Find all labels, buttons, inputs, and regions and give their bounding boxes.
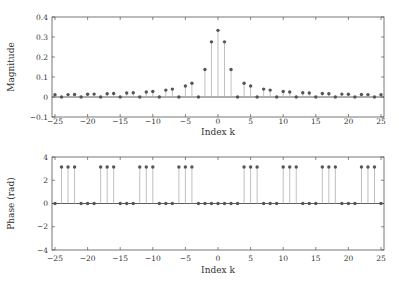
stem-marker <box>105 92 108 95</box>
stem-marker <box>73 165 76 168</box>
y-tick-label: 0.4 <box>36 13 48 22</box>
stem-marker <box>216 29 219 32</box>
stem-marker <box>60 165 63 168</box>
x-tick-label: 15 <box>311 254 321 263</box>
figure: −25−20−15−10−50510152025−0.100.10.20.30.… <box>0 0 399 291</box>
x-tick-label: 10 <box>278 117 288 126</box>
stem-marker <box>158 202 161 205</box>
stem-marker <box>53 93 56 96</box>
x-axis-label: Index k <box>201 265 235 275</box>
stem-marker <box>210 40 213 43</box>
stem-marker <box>373 165 376 168</box>
stem-marker <box>334 165 337 168</box>
stem-marker <box>66 93 69 96</box>
stem-marker <box>164 88 167 91</box>
x-tick-label: −15 <box>112 254 128 263</box>
stem-marker <box>177 165 180 168</box>
stem-marker <box>53 202 56 205</box>
stem-marker <box>145 90 148 93</box>
stem-marker <box>229 202 232 205</box>
stem-marker <box>360 93 363 96</box>
stem-marker <box>197 95 200 98</box>
magnitude-plot: −25−20−15−10−50510152025−0.100.10.20.30.… <box>6 13 386 137</box>
stem-marker <box>379 93 382 96</box>
stem-marker <box>249 165 252 168</box>
stem-marker <box>138 95 141 98</box>
stem-marker <box>373 95 376 98</box>
phase-plot: −25−20−15−10−50510152025−4−2024Index kPh… <box>6 153 386 275</box>
x-tick-label: 5 <box>248 117 253 126</box>
stem-marker <box>295 95 298 98</box>
stem-marker <box>171 87 174 90</box>
stem-marker <box>379 202 382 205</box>
y-tick-label: 2 <box>43 176 48 185</box>
stem-marker <box>321 92 324 95</box>
stem-marker <box>151 90 154 93</box>
stem-marker <box>366 165 369 168</box>
stem-marker <box>210 202 213 205</box>
stem-marker <box>132 91 135 94</box>
stem-marker <box>92 92 95 95</box>
stem-marker <box>360 165 363 168</box>
stem-marker <box>282 90 285 93</box>
x-tick-label: 15 <box>311 117 321 126</box>
stem-marker <box>334 95 337 98</box>
stem-marker <box>340 202 343 205</box>
stem-marker <box>190 82 193 85</box>
stem-marker <box>66 165 69 168</box>
x-tick-label: 25 <box>376 254 386 263</box>
x-tick-label: −15 <box>112 117 128 126</box>
stem-marker <box>353 202 356 205</box>
stem-marker <box>327 92 330 95</box>
stem-marker <box>366 93 369 96</box>
stem-marker <box>223 202 226 205</box>
stem-marker <box>190 165 193 168</box>
stem-marker <box>347 202 350 205</box>
y-tick-label: −0.1 <box>30 113 48 122</box>
stem-marker <box>119 202 122 205</box>
y-axis-label: Phase (rad) <box>6 177 16 229</box>
stem-marker <box>229 68 232 71</box>
stem-marker <box>301 202 304 205</box>
x-tick-label: −25 <box>47 117 63 126</box>
stem-marker <box>138 165 141 168</box>
stem-marker <box>73 93 76 96</box>
x-tick-label: 20 <box>344 117 354 126</box>
stem-marker <box>314 202 317 205</box>
stem-marker <box>262 202 265 205</box>
stem-marker <box>236 202 239 205</box>
y-tick-label: 0 <box>43 93 48 102</box>
y-tick-label: 0.3 <box>36 33 48 42</box>
stem-marker <box>86 202 89 205</box>
stem-marker <box>327 165 330 168</box>
stem-marker <box>216 202 219 205</box>
stem-marker <box>92 202 95 205</box>
x-axis-label: Index k <box>201 127 235 137</box>
x-tick-label: 5 <box>248 254 253 263</box>
y-tick-label: 0.1 <box>36 73 48 82</box>
stem-marker <box>282 165 285 168</box>
x-tick-label: 0 <box>216 254 221 263</box>
stem-marker <box>268 88 271 91</box>
stem-marker <box>125 91 128 94</box>
stem-marker <box>340 92 343 95</box>
stem-marker <box>99 95 102 98</box>
stem-marker <box>295 165 298 168</box>
stem-marker <box>112 165 115 168</box>
x-tick-label: 0 <box>216 117 221 126</box>
stem-marker <box>308 202 311 205</box>
stem-marker <box>347 93 350 96</box>
y-tick-label: −4 <box>37 246 48 255</box>
stem-marker <box>151 165 154 168</box>
stem-marker <box>184 84 187 87</box>
y-tick-label: −2 <box>37 222 48 231</box>
x-tick-label: −5 <box>180 117 191 126</box>
stem-marker <box>60 95 63 98</box>
stem-marker <box>145 165 148 168</box>
stem-marker <box>79 95 82 98</box>
stem-marker <box>177 95 180 98</box>
stem-marker <box>79 202 82 205</box>
stem-marker <box>242 165 245 168</box>
stem-marker <box>112 92 115 95</box>
x-tick-label: −25 <box>47 254 63 263</box>
